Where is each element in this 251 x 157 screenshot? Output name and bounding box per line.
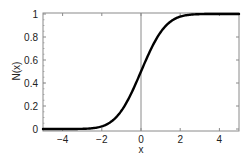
x-tick-label: −2 <box>96 134 108 145</box>
x-tick-label: 2 <box>177 134 183 145</box>
y-tick-label: 0 <box>32 124 38 135</box>
y-tick-label: 0.4 <box>24 78 38 89</box>
y-tick-label: 0.2 <box>24 101 38 112</box>
x-axis-label: x <box>139 144 144 155</box>
y-tick-label: 1 <box>32 9 38 20</box>
y-tick-label: 0.8 <box>24 32 38 43</box>
y-axis-label: N(x) <box>11 62 22 81</box>
x-tick-label: −4 <box>57 134 69 145</box>
x-tick-label: 4 <box>217 134 223 145</box>
normal-cdf-chart: 00.20.40.60.81 −4−2024 x N(x) <box>0 0 251 157</box>
y-tick-label: 0.6 <box>24 55 38 66</box>
